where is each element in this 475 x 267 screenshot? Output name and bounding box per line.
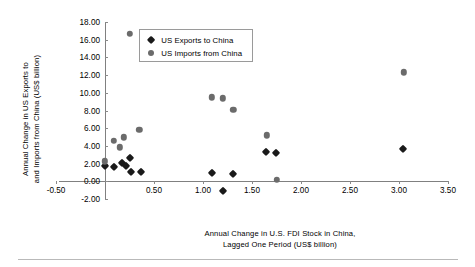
y-tick-label: 18.00 — [80, 18, 101, 27]
x-axis-title-line-1: Annual Change in U.S. FDI Stock in China… — [120, 228, 440, 239]
y-tick-mark — [105, 75, 108, 76]
legend-item-exports: US Exports to China — [148, 34, 233, 46]
y-tick-label: 2.00 — [84, 159, 100, 168]
x-axis-title-line-2: Lagged One Period (US$ billion) — [120, 239, 440, 250]
x-tick-mark — [56, 181, 57, 184]
y-tick-mark — [105, 199, 108, 200]
y-tick-mark — [105, 111, 108, 112]
x-tick-label: 3.00 — [391, 186, 407, 195]
y-tick-label: 12.00 — [80, 71, 101, 80]
y-axis-title-line-2: and Imports from China (US$ billion) — [32, 24, 43, 214]
data-point-exports — [127, 167, 136, 176]
x-tick-mark — [301, 181, 302, 184]
data-point-imports — [263, 132, 269, 138]
data-point-imports — [111, 137, 117, 143]
y-axis-title-line-1: Annual Change in US Exports to — [21, 24, 32, 214]
x-tick-label: 3.50 — [440, 186, 456, 195]
x-tick-label: -0.50 — [47, 186, 66, 195]
y-tick-label: -2.00 — [81, 195, 100, 204]
y-tick-label: 10.00 — [80, 88, 101, 97]
circle-marker-icon — [148, 50, 154, 56]
x-tick-mark — [252, 181, 253, 184]
data-point-imports — [116, 144, 122, 150]
x-axis-title: Annual Change in U.S. FDI Stock in China… — [120, 228, 440, 250]
y-tick-label: 6.00 — [84, 124, 100, 133]
y-tick-label: 14.00 — [80, 53, 101, 62]
x-tick-mark — [448, 181, 449, 184]
y-tick-label: 16.00 — [80, 35, 101, 44]
x-tick-label: 1.50 — [244, 186, 260, 195]
y-tick-label: 4.00 — [84, 141, 100, 150]
legend-label-imports: US Imports from China — [161, 49, 242, 58]
data-point-exports — [218, 186, 227, 195]
data-point-exports — [261, 148, 270, 157]
y-tick-mark — [105, 40, 108, 41]
data-point-imports — [209, 94, 215, 100]
data-point-imports — [120, 134, 126, 140]
data-point-exports — [399, 145, 408, 154]
data-point-imports — [401, 69, 407, 75]
footer-divider — [18, 259, 458, 260]
data-point-exports — [137, 168, 146, 177]
scatter-chart-figure: Annual Change in US Exports to and Impor… — [0, 0, 475, 267]
x-tick-label: 0.50 — [146, 186, 162, 195]
legend-label-exports: US Exports to China — [161, 36, 233, 45]
data-point-exports — [125, 153, 134, 162]
x-tick-label: 2.50 — [342, 186, 358, 195]
y-tick-mark — [105, 93, 108, 94]
legend-item-imports: US Imports from China — [148, 47, 242, 59]
y-tick-mark — [105, 146, 108, 147]
data-point-exports — [109, 163, 118, 172]
x-tick-label: 1.00 — [195, 186, 211, 195]
x-axis-line — [59, 181, 448, 182]
x-tick-label: 2.00 — [293, 186, 309, 195]
x-tick-mark — [399, 181, 400, 184]
data-point-exports — [229, 170, 238, 179]
y-tick-mark — [105, 57, 108, 58]
data-point-imports — [219, 95, 225, 101]
y-tick-label: 8.00 — [84, 106, 100, 115]
y-tick-label: 0.00 — [84, 177, 100, 186]
y-tick-mark — [105, 22, 108, 23]
data-point-imports — [136, 127, 142, 133]
y-tick-mark — [105, 128, 108, 129]
x-tick-mark — [203, 181, 204, 184]
chart-legend: US Exports to China US Imports from Chin… — [139, 29, 253, 62]
x-tick-mark — [350, 181, 351, 184]
data-point-exports — [207, 169, 216, 178]
x-tick-mark — [154, 181, 155, 184]
y-tick-mark — [105, 181, 108, 182]
data-point-imports — [230, 107, 236, 113]
data-point-exports — [271, 148, 280, 157]
diamond-marker-icon — [147, 36, 156, 45]
data-point-imports — [126, 31, 132, 37]
